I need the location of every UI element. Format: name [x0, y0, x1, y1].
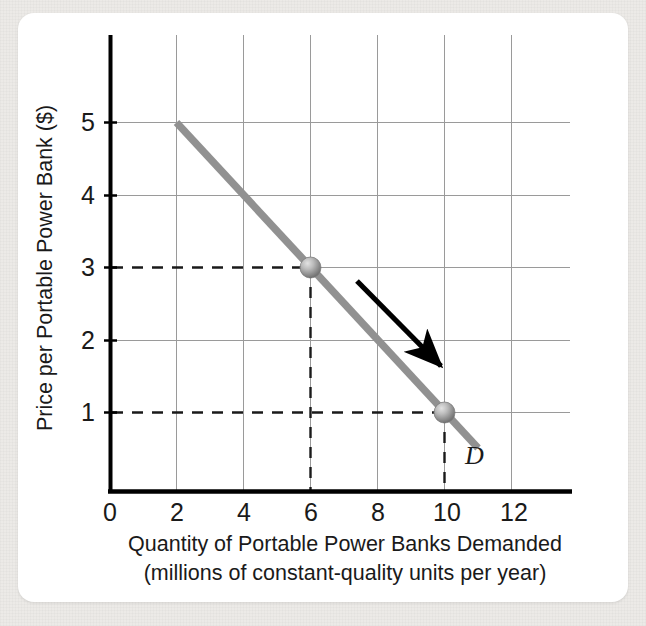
x-tick-label: 6 [304, 498, 318, 526]
gridlines-horizontal [110, 123, 570, 341]
point-a-sphere[interactable] [300, 257, 321, 278]
x-tick-label: 4 [237, 498, 251, 526]
demand-curve-label: D [464, 441, 484, 470]
data-point-marker[interactable] [300, 257, 321, 278]
x-tick-label: 2 [170, 498, 184, 526]
y-tick-label: 2 [81, 326, 95, 354]
y-tick-label: 1 [81, 398, 95, 426]
gridlines-vertical [177, 35, 512, 492]
x-tick-label: 8 [371, 498, 385, 526]
x-tick-label: 12 [500, 498, 528, 526]
guide-lines [112, 267, 445, 491]
figure-root: 0 2 4 6 8 10 12 1 2 3 4 5 D Quantity of … [0, 0, 646, 626]
x-tick-label: 0 [103, 498, 117, 526]
x-axis-title-line1: Quantity of Portable Power Banks Demande… [128, 532, 562, 556]
y-tick-label: 4 [81, 181, 95, 209]
y-tick-label: 5 [81, 108, 95, 136]
y-axis-title: Price per Portable Power Bank ($) [33, 105, 57, 431]
x-axis-title-line2: (millions of constant-quality units per … [144, 561, 547, 585]
movement-along-curve-arrow [357, 281, 441, 366]
data-point-marker[interactable] [434, 402, 455, 423]
point-b-sphere[interactable] [434, 402, 455, 423]
x-tick-label: 10 [433, 498, 461, 526]
demand-curve-chart: 0 2 4 6 8 10 12 1 2 3 4 5 D Quantity of … [0, 0, 646, 626]
y-tick-label: 3 [81, 253, 95, 281]
demand-curve [177, 123, 479, 449]
